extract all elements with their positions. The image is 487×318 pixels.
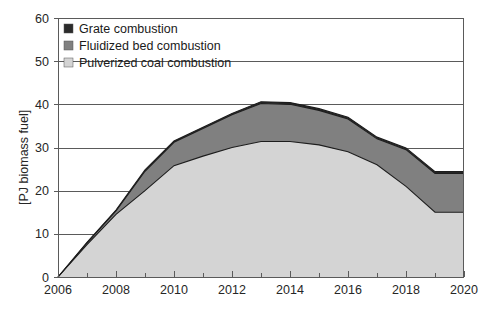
y-tick-label-30: 30	[35, 141, 49, 155]
y-tick-label-60: 60	[35, 12, 49, 26]
y-tick-label-10: 10	[35, 227, 49, 241]
legend-swatch-0	[64, 24, 73, 33]
legend-label-2: Pulverized coal combustion	[79, 56, 231, 70]
x-tick-label-2008: 2008	[102, 283, 130, 297]
x-tick-label-2012: 2012	[218, 283, 246, 297]
legend-label-0: Grate combustion	[79, 22, 178, 36]
chart-figure: 20062008201020122014201620182020 0102030…	[0, 0, 487, 318]
legend-label-1: Fluidized bed combustion	[79, 39, 221, 53]
x-tick-label-2014: 2014	[276, 283, 304, 297]
y-tick-label-50: 50	[35, 55, 49, 69]
x-tick-label-2006: 2006	[44, 283, 72, 297]
biomass-fuel-stacked-area-chart: 20062008201020122014201620182020 0102030…	[0, 0, 487, 318]
x-tick-label-2018: 2018	[392, 283, 420, 297]
x-axis-tick-labels: 20062008201020122014201620182020	[44, 283, 478, 297]
x-tick-label-2020: 2020	[450, 283, 478, 297]
legend-swatch-1	[64, 41, 73, 50]
y-axis-title: [PJ biomass fuel]	[17, 110, 31, 205]
y-tick-label-0: 0	[42, 271, 49, 285]
y-tick-label-20: 20	[35, 184, 49, 198]
x-tick-label-2016: 2016	[334, 283, 362, 297]
x-tick-label-2010: 2010	[160, 283, 188, 297]
legend-swatch-2	[64, 58, 73, 67]
y-tick-label-40: 40	[35, 98, 49, 112]
y-axis-tick-labels: 0102030405060	[35, 12, 49, 285]
